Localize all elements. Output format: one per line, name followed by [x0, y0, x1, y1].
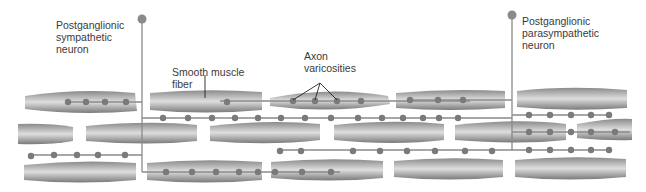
axon-varicosities-label: Axon varicosities [304, 50, 356, 74]
fiber [515, 157, 626, 179]
sympathetic-soma [138, 15, 147, 24]
fiber [334, 122, 444, 143]
fiber [577, 119, 632, 140]
smooth-muscle-fiber-label: Smooth muscle fiber [172, 66, 244, 90]
fiber [517, 88, 627, 110]
parasympathetic-soma [508, 11, 517, 20]
fiber [394, 158, 503, 179]
fiber [271, 159, 383, 180]
sympathetic-neuron-label: Postganglionic sympathetic neuron [56, 19, 124, 55]
fiber [18, 124, 73, 144]
autonomic-neuroeffector-diagram: Postganglionic sympathetic neuron Smooth… [0, 0, 646, 192]
fiber [210, 122, 320, 143]
fiber [24, 161, 136, 182]
parasympathetic-neuron-label: Postganglionic parasympathetic neuron [522, 15, 599, 51]
